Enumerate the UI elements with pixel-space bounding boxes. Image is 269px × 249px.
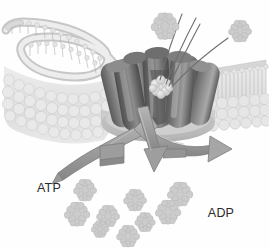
molecule-cluster [64,202,90,226]
atp-label: ATP [37,182,61,195]
adp-label-group: ADP + P [204,180,238,249]
molecule-cluster [117,225,140,247]
molecule-cluster [135,212,155,231]
molecule-cluster [74,179,97,201]
molecule-cluster [124,189,147,211]
molecule-cluster [229,20,252,42]
adp-label: ADP [204,206,238,220]
molecule-cluster [151,13,179,40]
membrane-pump-figure: ATP ADP + P [0,0,269,249]
